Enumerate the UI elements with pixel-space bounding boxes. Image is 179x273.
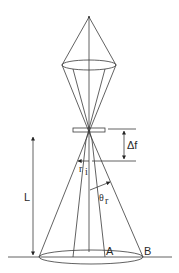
radius-subscript: i	[85, 166, 88, 177]
point-a-label: A	[106, 245, 114, 257]
theta-label: θ	[99, 192, 104, 203]
angle-marker: θ r	[90, 182, 110, 206]
delta-f-label: Δf	[127, 139, 138, 151]
theta-subscript: r	[105, 195, 109, 206]
diagram-canvas: Δf r i θ r L A B	[0, 0, 179, 273]
length-dimension: L	[24, 137, 33, 255]
length-label: L	[24, 191, 30, 203]
point-b-label: B	[144, 245, 151, 257]
defocus-dimension: Δf	[92, 129, 138, 161]
